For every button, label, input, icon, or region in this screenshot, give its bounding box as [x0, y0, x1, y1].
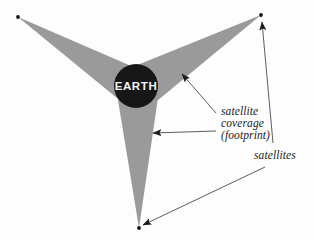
satellite-dot-upper-right [259, 13, 263, 17]
satellite-coverage-label: satellite coverage (footprint) [221, 105, 270, 142]
satellite-coverage-diagram: EARTH satellite coverage (footprint) sat… [0, 0, 314, 240]
coverage-label-line-2: coverage [221, 117, 270, 129]
satellite-dot-bottom [137, 226, 141, 230]
coverage-label-line-3: (footprint) [221, 129, 270, 141]
satellites-label: satellites [254, 149, 296, 161]
earth-label: EARTH [0, 80, 272, 92]
leader-line-coverage-lower [153, 131, 216, 133]
coverage-label-line-1: satellite [221, 105, 270, 117]
satellite-dot-upper-left [16, 15, 20, 19]
leader-line-satellites-lower [143, 167, 265, 225]
